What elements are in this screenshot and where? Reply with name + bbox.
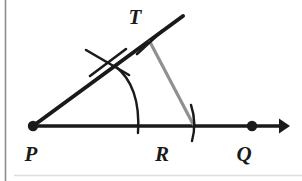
vertex-point-q — [247, 121, 257, 131]
vertex-label-p: P — [24, 142, 38, 166]
figure-background — [0, 0, 302, 181]
vertex-label-r: R — [154, 142, 169, 166]
vertex-point-p — [28, 121, 38, 131]
vertex-label-t: T — [129, 5, 143, 29]
construction-diagram-canvas: T P R Q — [0, 0, 302, 181]
vertex-label-q: Q — [236, 142, 251, 166]
geometry-figure: T P R Q — [0, 0, 302, 181]
